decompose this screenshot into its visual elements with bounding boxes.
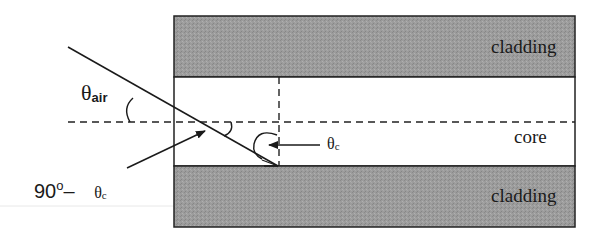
top-cladding-label: cladding bbox=[491, 36, 556, 58]
core-label: core bbox=[514, 126, 547, 148]
ninety-minus-theta-c-label: 90o– θc bbox=[34, 178, 107, 203]
theta-c-label: θc bbox=[327, 135, 340, 153]
theta-air-label: θair bbox=[81, 80, 107, 106]
theta-symbol: θ bbox=[94, 184, 102, 201]
theta-symbol: θ bbox=[81, 80, 92, 105]
minus-sign: – bbox=[63, 180, 74, 202]
ninety-value: 90 bbox=[34, 180, 56, 202]
c-subscript: c bbox=[102, 189, 107, 201]
air-subscript: air bbox=[92, 90, 108, 105]
theta-air-arc bbox=[127, 98, 133, 122]
c-subscript: c bbox=[335, 140, 340, 152]
bottom-cladding-label: cladding bbox=[491, 185, 556, 207]
theta-c-term: θc bbox=[94, 184, 107, 201]
theta-symbol: θ bbox=[327, 135, 335, 152]
